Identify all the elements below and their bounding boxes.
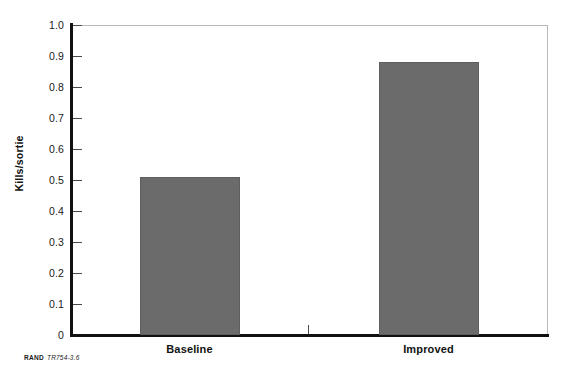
y-axis-tick-label-text: 1.0 (38, 20, 64, 31)
y-axis-tick (73, 56, 82, 57)
y-axis-tick (73, 180, 82, 181)
y-axis-tick-label-text: 0.9 (38, 51, 64, 62)
y-axis-tick (73, 25, 82, 26)
y-axis-tick (73, 211, 82, 212)
y-axis-tick-label-text: 0.2 (38, 268, 64, 279)
y-axis-tick (73, 87, 82, 88)
y-axis-tick-label: 0.3 (38, 237, 64, 248)
y-axis-tick-label: 0.6 (38, 144, 64, 155)
figure-code-text: TR754-3.6 (47, 354, 80, 361)
y-axis-tick-label-text: 0.7 (38, 113, 64, 124)
bar-improved (379, 62, 479, 335)
y-axis-tick-label: 0.4 (38, 206, 64, 217)
y-axis-tick-label: 0.7 (38, 113, 64, 124)
y-axis-tick (73, 273, 82, 274)
y-axis-tick (73, 149, 82, 150)
figure-credit: RANDTR754-3.6 (24, 354, 80, 362)
y-axis-tick-label-text: 0 (38, 330, 64, 341)
y-axis-tick (73, 304, 82, 305)
y-axis-tick-label: 0.5 (38, 175, 64, 186)
y-axis-tick-label-text: 0.4 (38, 206, 64, 217)
x-axis-mid-tick (308, 325, 309, 334)
y-axis-tick-label: 0.2 (38, 268, 64, 279)
y-axis-tick-label: 0.9 (38, 51, 64, 62)
y-axis-title: Kills/sortie (14, 119, 25, 209)
x-axis-label-improved: Improved (349, 343, 509, 356)
y-axis-tick-label: 0.8 (38, 82, 64, 93)
figure-container: 00.10.20.30.40.50.60.70.80.91.0 Baseline… (0, 0, 570, 377)
x-axis-label-baseline: Baseline (110, 343, 270, 356)
y-axis-tick (73, 118, 82, 119)
y-axis-tick-label-text: 0.5 (38, 175, 64, 186)
y-axis-tick-label-text: 0.6 (38, 144, 64, 155)
y-axis-tick-label: 1.0 (38, 20, 64, 31)
y-axis-tick (73, 242, 82, 243)
y-axis-tick-label-text: 0.8 (38, 82, 64, 93)
bar-baseline (140, 177, 240, 335)
y-axis-tick-label: 0 (38, 330, 64, 341)
y-axis-tick-label: 0.1 (38, 299, 64, 310)
y-axis-tick-label-text: 0.1 (38, 299, 64, 310)
rand-logo-text: RAND (24, 354, 44, 361)
y-axis-tick-label-text: 0.3 (38, 237, 64, 248)
